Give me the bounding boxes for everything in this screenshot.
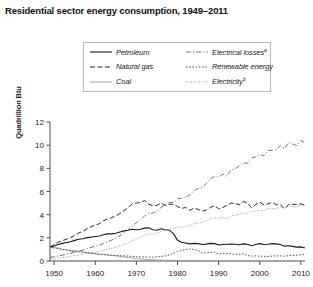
x-tick-label: 1970 [127,269,145,278]
chart-legend: PetroleumElectrical lossesaNatural gasRe… [83,42,271,92]
y-tick-label: 10 [35,141,44,150]
legend-item-label: Electricityb [212,77,246,86]
legend-grid: PetroleumElectrical lossesaNatural gasRe… [84,43,270,91]
legend-swatch-dashed-icon [90,63,112,71]
y-tick-label: 2 [40,234,45,243]
legend-item-label: Electrical lossesa [212,48,267,57]
plot-area: 0246810121950196019701980199020002010 [0,95,313,287]
legend-footnote-marker: a [264,46,267,52]
legend-item[interactable]: Electrical lossesa [186,45,278,59]
legend-swatch-solid-icon [90,78,112,86]
page-title: Residential sector energy consumption, 1… [5,5,308,17]
y-tick-label: 12 [35,118,44,127]
legend-swatch-solid-icon [90,48,112,56]
legend-item-label: Coal [116,77,131,86]
series-line-electricity [50,205,305,259]
legend-item[interactable]: Natural gas [90,60,186,74]
legend-item-label: Petroleum [116,48,149,57]
x-tick-label: 2010 [292,269,310,278]
x-tick-label: 1950 [45,269,63,278]
legend-item[interactable]: Renewable energy [186,60,278,74]
legend-swatch-dashdot-icon [186,48,208,56]
series-line-coal [50,247,305,261]
legend-footnote-marker: b [243,76,246,82]
legend-item[interactable]: Electricityb [186,75,278,89]
x-tick-label: 1960 [86,269,104,278]
x-tick-label: 1990 [210,269,228,278]
x-tick-label: 2000 [251,269,269,278]
y-tick-label: 4 [40,211,45,220]
x-tick-label: 1980 [169,269,187,278]
chart-root: Residential sector energy consumption, 1… [0,0,313,287]
legend-item-label: Renewable energy [212,62,273,71]
legend-item-label: Natural gas [116,62,153,71]
legend-item[interactable]: Coal [90,75,186,89]
line-chart-svg: 0246810121950196019701980199020002010 [0,95,313,287]
series-line-petroleum [50,228,305,248]
legend-swatch-dotted-icon [186,63,208,71]
y-tick-label: 0 [40,257,45,266]
y-tick-label: 6 [40,188,45,197]
legend-item[interactable]: Petroleum [90,45,186,59]
legend-swatch-finedot-icon [186,78,208,86]
y-axis-title: Quadrillion Btu [14,73,23,153]
y-tick-label: 8 [40,164,45,173]
